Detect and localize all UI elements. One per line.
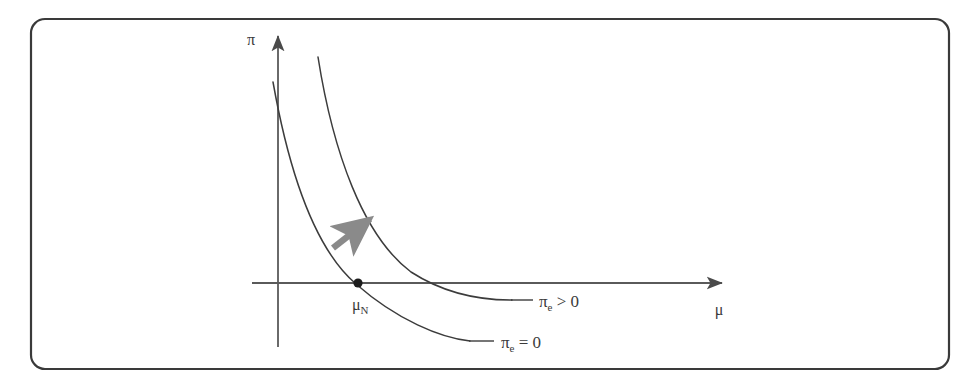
mu-symbol: μ	[352, 296, 361, 314]
x-axis-label: μ	[715, 301, 724, 319]
curve-label-pi-relation: > 0	[552, 292, 579, 311]
curve-pi-e-positive	[318, 57, 512, 300]
curve-pi-e-zero	[273, 82, 470, 341]
phillips-curve-figure: π μ πe > 0 πe = 0 μN	[0, 0, 975, 392]
phillips-curve-canvas: π μ πe > 0 πe = 0 μN	[0, 0, 975, 392]
y-axis-label: π	[247, 31, 255, 48]
mu-subscript: N	[361, 304, 369, 316]
natural-rate-point-marker	[353, 278, 362, 287]
curve-label-pi-e-positive: πe > 0	[539, 292, 579, 313]
figure-border	[31, 19, 949, 369]
curve-label-pi-relation-zero: = 0	[514, 333, 541, 352]
curve-label-pi-e-zero: πe = 0	[501, 333, 541, 354]
shift-arrow	[333, 219, 370, 248]
natural-rate-point-label: μN	[352, 296, 369, 316]
